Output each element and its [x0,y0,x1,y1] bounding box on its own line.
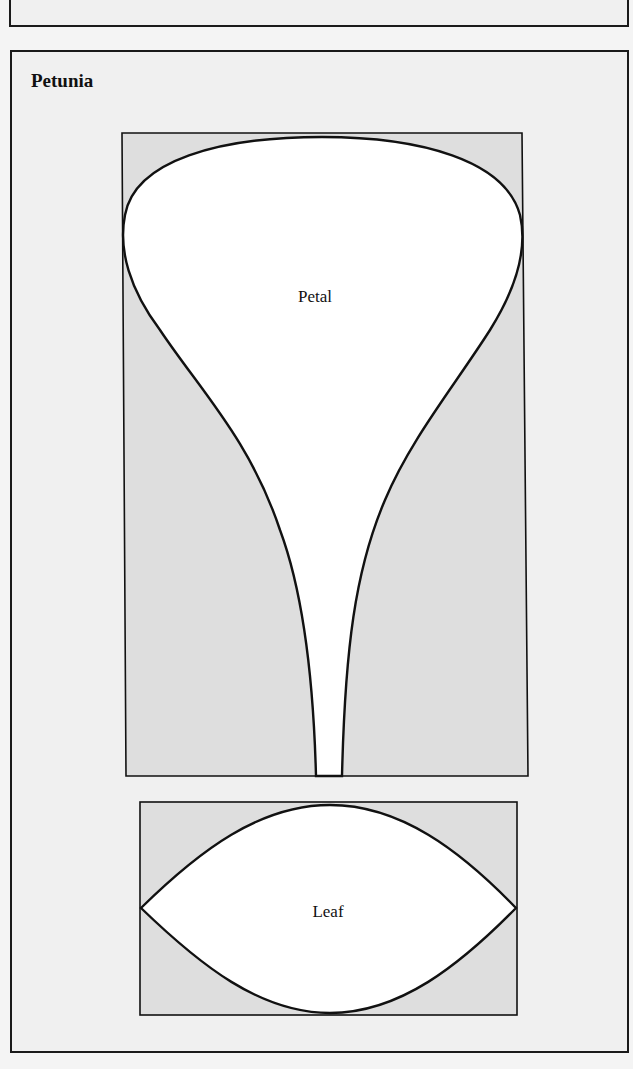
petal-label: Petal [298,287,332,307]
leaf-label: Leaf [312,902,343,922]
